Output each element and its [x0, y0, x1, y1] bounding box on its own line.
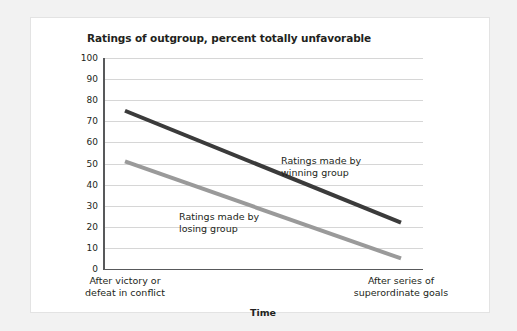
y-tick-label: 10 — [87, 243, 98, 252]
y-tick-label: 70 — [87, 117, 98, 126]
x-tick-label: After victory ordefeat in conflict — [70, 275, 180, 299]
y-tick-label: 20 — [87, 222, 98, 231]
x-tick-label: After series ofsuperordinate goals — [346, 275, 456, 299]
x-tick-label-line: After series of — [346, 275, 456, 287]
x-tick-label-line: After victory or — [70, 275, 180, 287]
y-tick-label: 0 — [92, 265, 98, 274]
annotation-line: losing group — [179, 223, 259, 235]
y-tick-label: 100 — [81, 54, 98, 63]
y-tick-label: 40 — [87, 180, 98, 189]
y-tick-label: 90 — [87, 75, 98, 84]
annotation-losing-group: Ratings made bylosing group — [179, 211, 259, 235]
y-tick-label: 50 — [87, 159, 98, 168]
y-tick-label: 60 — [87, 138, 98, 147]
x-axis-title: Time — [103, 307, 423, 318]
plot-area: 0102030405060708090100 After victory ord… — [103, 58, 423, 269]
y-tick-label: 80 — [87, 96, 98, 105]
x-tick-label-line: defeat in conflict — [70, 287, 180, 299]
x-tick-label-line: superordinate goals — [346, 287, 456, 299]
annotation-line: winning group — [281, 167, 361, 179]
annotation-line: Ratings made by — [179, 211, 259, 223]
series-layer — [103, 58, 423, 269]
chart-title: Ratings of outgroup, percent totally unf… — [87, 32, 371, 44]
figure-panel: Ratings of outgroup, percent totally unf… — [30, 17, 490, 313]
annotation-winning-group: Ratings made bywinning group — [281, 155, 361, 179]
annotation-line: Ratings made by — [281, 155, 361, 167]
y-tick-label: 30 — [87, 201, 98, 210]
